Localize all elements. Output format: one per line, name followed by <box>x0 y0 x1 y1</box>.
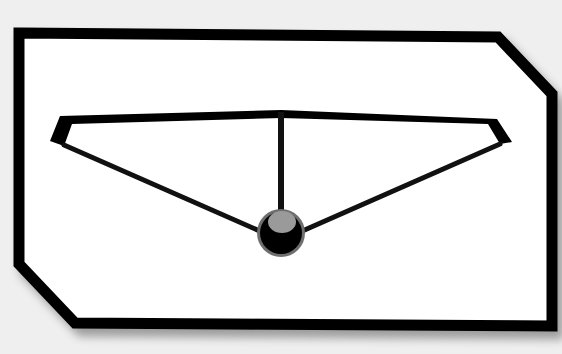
knob-highlight <box>268 211 296 233</box>
illustration-canvas <box>0 0 562 354</box>
frame-shape <box>19 33 552 326</box>
frame <box>19 33 552 326</box>
